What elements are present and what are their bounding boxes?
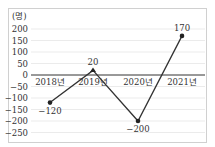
y-tick-label: −200 bbox=[5, 116, 28, 126]
y-tick-label: −50 bbox=[10, 82, 28, 92]
data-label: 170 bbox=[174, 23, 190, 33]
x-category-label: 2021년 bbox=[167, 77, 197, 87]
y-tick-label: 50 bbox=[17, 59, 28, 69]
data-label: 20 bbox=[88, 57, 99, 67]
y-tick-label: 200 bbox=[12, 24, 28, 34]
x-category-label: 2020년 bbox=[123, 77, 153, 87]
y-tick-label: 0 bbox=[23, 70, 28, 80]
y-tick-label: 100 bbox=[12, 47, 28, 57]
line-chart: (명) 200150100500−50−100−150−200−250 2018… bbox=[0, 0, 215, 147]
y-tick-label: −150 bbox=[5, 105, 28, 115]
y-tick-label: 150 bbox=[12, 36, 28, 46]
data-label: −120 bbox=[38, 106, 61, 116]
y-tick-label: −250 bbox=[5, 128, 28, 138]
data-point-marker bbox=[136, 119, 141, 124]
y-tick-label: −100 bbox=[5, 93, 28, 103]
data-label: −200 bbox=[126, 124, 149, 134]
y-axis-unit-label: (명) bbox=[12, 11, 27, 21]
data-point-marker bbox=[180, 34, 185, 39]
data-point-marker bbox=[48, 100, 53, 105]
x-category-label: 2018년 bbox=[35, 77, 65, 87]
